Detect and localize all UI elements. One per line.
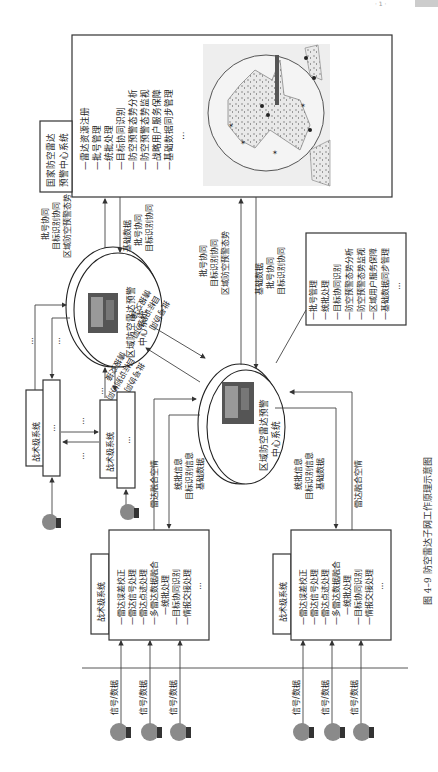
page-number-badge bbox=[415, 0, 438, 7]
svg-text:—目标协同识别: —目标协同识别 bbox=[115, 107, 126, 170]
svg-text:…: … bbox=[176, 131, 186, 140]
svg-text:批号协同: 批号协同 bbox=[40, 208, 50, 240]
svg-text:统批信息: 统批信息 bbox=[293, 458, 303, 490]
link-b-national: 批号协同 目标识别协同 区域防空预警态势 基础数据 批号协同 目标识别协同 bbox=[198, 197, 286, 368]
svg-text:区域防空雷达预警: 区域防空雷达预警 bbox=[125, 286, 136, 358]
svg-text:批号协同: 批号协同 bbox=[133, 214, 143, 246]
svg-text:—批号管理: —批号管理 bbox=[308, 280, 318, 320]
svg-text:…: … bbox=[123, 436, 132, 444]
svg-text:…: … bbox=[376, 582, 385, 590]
svg-text:—情报交接处理: —情报交接处理 bbox=[182, 569, 192, 625]
diagram-canvas: · 1 · 国家防空雷达 预警中心系统 —雷达资源注册 —批号管理 —统批处理 … bbox=[0, 0, 438, 772]
svg-text:战术级系统: 战术级系统 bbox=[96, 582, 106, 622]
svg-text:战术级系统: 战术级系统 bbox=[105, 432, 115, 472]
radar-icon bbox=[110, 723, 131, 741]
svg-text:…: … bbox=[77, 452, 86, 460]
radar-icon bbox=[170, 723, 191, 741]
svg-text:信号/数据: 信号/数据 bbox=[138, 680, 148, 715]
link-b-tactical-left: 雷达融合空情 统批信息 目标识别信息 基础数据 bbox=[149, 399, 205, 530]
svg-text:—防空预警态势分析: —防空预警态势分析 bbox=[344, 248, 354, 320]
svg-text:—统批处理: —统批处理 bbox=[342, 575, 352, 615]
svg-text:基础数据: 基础数据 bbox=[315, 458, 325, 490]
svg-text:✶: ✶ bbox=[228, 122, 234, 130]
svg-text:信号/数据: 信号/数据 bbox=[320, 680, 330, 715]
svg-text:中心系统: 中心系统 bbox=[270, 421, 281, 457]
svg-text:…: … bbox=[96, 387, 105, 395]
svg-text:✶: ✶ bbox=[300, 102, 306, 110]
svg-text:—情报交接处理: —情报交接处理 bbox=[364, 569, 374, 625]
figure-caption: 图 4–9 防空雷达子网工作原理示意图 bbox=[422, 457, 433, 605]
svg-text:…: … bbox=[194, 582, 203, 590]
svg-text:批号协同: 批号协同 bbox=[198, 245, 208, 277]
radar-icon bbox=[42, 514, 61, 530]
svg-text:—雷达误差校正: —雷达误差校正 bbox=[298, 569, 308, 625]
svg-text:图 4–9 防空雷达子网工作原理示意图: 图 4–9 防空雷达子网工作原理示意图 bbox=[422, 457, 433, 605]
svg-text:目标识别信息: 目标识别信息 bbox=[304, 452, 314, 500]
svg-text:基础数据: 基础数据 bbox=[122, 220, 132, 252]
page-header: · 1 · bbox=[375, 0, 438, 7]
svg-text:目标识别协同: 目标识别协同 bbox=[51, 202, 61, 250]
svg-text:批号协同: 批号协同 bbox=[265, 257, 275, 289]
svg-text:…: … bbox=[48, 424, 57, 432]
svg-text:· 1 ·: · 1 · bbox=[375, 0, 387, 7]
svg-text:基础数据: 基础数据 bbox=[195, 458, 205, 490]
svg-text:战术级系统: 战术级系统 bbox=[31, 422, 41, 462]
svg-text:基础数据: 基础数据 bbox=[254, 263, 264, 295]
radar-icons-bottom bbox=[110, 723, 374, 741]
tactical-small-2: 战术级系统 … bbox=[100, 392, 135, 488]
svg-text:✶: ✶ bbox=[240, 139, 246, 147]
svg-text:—雷达资源注册: —雷达资源注册 bbox=[79, 107, 90, 170]
tactical-large-1: 战术级系统 —雷达误差校正 —雷达信号处理 —雷达点迹处理 —多雷达数据融合 —… bbox=[91, 530, 209, 640]
svg-text:—统批处理: —统批处理 bbox=[103, 125, 114, 170]
svg-text:统批信息: 统批信息 bbox=[173, 458, 183, 490]
svg-text:雷达融合空情: 雷达融合空情 bbox=[353, 460, 363, 508]
svg-text:—目标协同识别: —目标协同识别 bbox=[332, 264, 342, 320]
svg-text:…: … bbox=[53, 337, 62, 345]
svg-text:信号/数据: 信号/数据 bbox=[349, 680, 359, 715]
svg-text:区域防空预警态势: 区域防空预警态势 bbox=[62, 194, 72, 258]
link-b-tactical-right: 统批信息 目标识别信息 基础数据 雷达融合空情 bbox=[275, 392, 363, 530]
svg-text:—防空预警态势监视: —防空预警态势监视 bbox=[356, 248, 366, 320]
svg-text:战术级系统: 战术级系统 bbox=[278, 582, 288, 622]
svg-text:目标识别协同: 目标识别协同 bbox=[144, 204, 154, 252]
svg-text:—雷达信号处理: —雷达信号处理 bbox=[309, 569, 319, 625]
svg-text:目标识别信息: 目标识别信息 bbox=[184, 452, 194, 500]
radar-icon bbox=[324, 723, 345, 741]
svg-text:目标识别协同: 目标识别协同 bbox=[209, 239, 219, 287]
link-a-national: 批号协同 目标识别协同 区域防空预警态势 基础数据 批号协同 目标识别协同 bbox=[40, 194, 154, 258]
svg-text:…: … bbox=[26, 337, 35, 345]
svg-text:—雷达点迹处理: —雷达点迹处理 bbox=[320, 569, 330, 625]
radar-coverage-map: ✶ ✶ ✶ ✶ bbox=[203, 44, 330, 186]
svg-text:—统批处理: —统批处理 bbox=[320, 280, 330, 320]
svg-text:—统批处理: —统批处理 bbox=[160, 575, 170, 615]
svg-text:区域防空预警态势: 区域防空预警态势 bbox=[220, 231, 230, 295]
radar-icon bbox=[353, 723, 374, 741]
svg-text:—雷达误差校正: —雷达误差校正 bbox=[116, 569, 126, 625]
svg-text:—雷达点迹处理: —雷达点迹处理 bbox=[138, 569, 148, 625]
svg-text:信号/数据: 信号/数据 bbox=[291, 680, 301, 715]
svg-text:信号/数据: 信号/数据 bbox=[168, 680, 178, 715]
svg-text:—防空预警态势监视: —防空预警态势监视 bbox=[139, 89, 150, 170]
svg-text:—多雷达数据融合: —多雷达数据融合 bbox=[149, 561, 159, 625]
svg-text:—批号管理: —批号管理 bbox=[91, 125, 102, 170]
svg-text:—防空预警态势分析: —防空预警态势分析 bbox=[127, 89, 138, 170]
svg-text:目标识别协同: 目标识别协同 bbox=[276, 247, 286, 295]
svg-text:信号/数据: 信号/数据 bbox=[109, 680, 119, 715]
svg-text:—战略用户服务保障: —战略用户服务保障 bbox=[151, 89, 162, 170]
national-center-title-2: 预警中心系统 bbox=[58, 133, 69, 187]
svg-text:…: … bbox=[77, 417, 86, 425]
radar-icon bbox=[293, 723, 314, 741]
signal-inputs: 信号/数据 信号/数据 信号/数据 信号/数据 信号/数据 信号/数据 bbox=[109, 641, 361, 730]
svg-text:✶: ✶ bbox=[272, 149, 278, 157]
svg-text:—基础数据同步管理: —基础数据同步管理 bbox=[380, 248, 390, 320]
svg-text:雷达融合空情: 雷达融合空情 bbox=[149, 460, 159, 508]
radar-icon bbox=[120, 504, 139, 520]
national-center-title-1: 国家防空雷达 bbox=[45, 133, 56, 187]
tactical-small-1: 战术级系统 … bbox=[26, 380, 60, 476]
svg-text:区域防空雷达预警: 区域防空雷达预警 bbox=[258, 399, 269, 471]
svg-text:—多雷达数据融合: —多雷达数据融合 bbox=[331, 561, 341, 625]
svg-text:…: … bbox=[393, 282, 402, 290]
tactical-large-2: 战术级系统 —雷达误差校正 —雷达信号处理 —雷达点迹处理 —多雷达数据融合 —… bbox=[273, 530, 391, 640]
svg-text:—目标协同识别: —目标协同识别 bbox=[353, 569, 363, 625]
svg-text:—基础数据同步管理: —基础数据同步管理 bbox=[163, 89, 174, 170]
